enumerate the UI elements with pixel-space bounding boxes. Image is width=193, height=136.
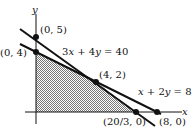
label-point-0-5: (0, 5) <box>40 24 67 35</box>
point-0-5 <box>33 34 39 40</box>
label-point-0-4: (0, 4) <box>0 47 27 58</box>
equation-3x-4y-40: 3x + 4y = 40 <box>62 46 128 57</box>
point-0-4 <box>33 49 39 55</box>
label-point-20-3-0: (20/3, 0) <box>103 116 146 127</box>
equation-x-2y-8: x + 2y = 8 <box>138 86 192 97</box>
feasible-region-diagram: y x (0, 5) (0, 4) (4, 2) (20/3, 0) (8, 0… <box>0 0 193 136</box>
feasible-region <box>36 52 136 112</box>
label-point-4-2: (4, 2) <box>99 69 126 80</box>
point-8-0 <box>154 109 160 115</box>
label-point-8-0: (8, 0) <box>159 116 186 127</box>
y-axis-label: y <box>31 4 38 15</box>
point-20-3-0 <box>133 109 139 115</box>
